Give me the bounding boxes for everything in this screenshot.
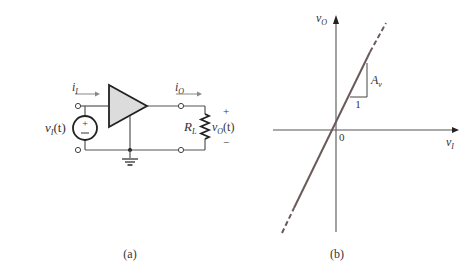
slope-run-label: 1	[355, 98, 361, 110]
x-axis-arrow-icon	[452, 127, 459, 133]
source-plus: +	[82, 118, 88, 129]
input-terminal-bottom	[75, 147, 80, 152]
amplifier-icon	[109, 85, 147, 127]
y-axis-arrow-icon	[333, 15, 339, 24]
transfer-characteristic-graph: vO vI 0 Av 1 (b)	[273, 11, 459, 261]
output-terminal-bottom	[178, 147, 183, 152]
circuit-diagram: + iI iO vI(t) RL vO(t)	[45, 80, 234, 261]
output-current-label: iO	[175, 80, 184, 96]
caption-b: (b)	[330, 247, 344, 261]
caption-a: (a)	[123, 247, 136, 261]
ground-icon	[122, 159, 138, 165]
origin-label: 0	[339, 131, 345, 143]
load-resistor-icon	[201, 114, 209, 139]
y-axis-label: vO	[316, 11, 327, 27]
transfer-line-dashed-high	[370, 23, 386, 52]
diagram-canvas: + iI iO vI(t) RL vO(t)	[0, 0, 473, 272]
load-resistor-label: RL	[183, 119, 197, 136]
transfer-line-dashed-low	[282, 208, 294, 233]
output-voltage-label: vO(t)	[212, 120, 234, 136]
input-terminal-top	[75, 103, 80, 108]
output-plus: +	[223, 105, 229, 117]
input-current-label: iI	[72, 80, 78, 96]
source-voltage-label: vI(t)	[45, 120, 66, 137]
output-terminal-top	[178, 103, 183, 108]
x-axis-label: vI	[446, 135, 454, 151]
input-current-arrow-icon	[75, 92, 100, 97]
output-minus: −	[223, 136, 229, 148]
slope-rise-label: Av	[370, 73, 382, 89]
